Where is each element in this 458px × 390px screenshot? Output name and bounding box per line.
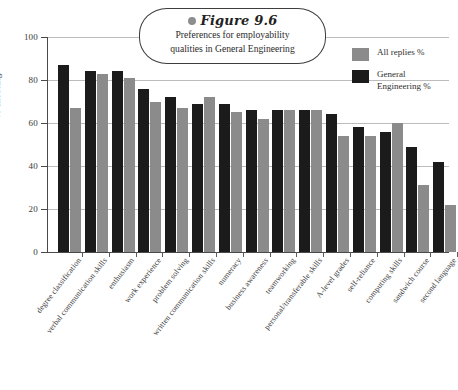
figure-title-line-1: Preferences for employability [140,28,325,42]
bar-all-replies [418,185,429,252]
bar-all-replies [311,110,322,252]
bar-all-replies [258,119,269,252]
bar-all-replies [150,102,161,253]
bar-general-engineering [112,71,123,252]
figure-number-row: Figure 9.6 [140,13,325,28]
figure-number: Figure 9.6 [201,13,278,28]
bar-general-engineering [272,110,283,252]
y-tick-label: 80 [14,75,38,85]
y-tick-label: 20 [14,204,38,214]
x-axis-label: numeracy [216,256,243,287]
bar-group [165,37,188,252]
bar-all-replies [124,78,135,252]
bar-group [299,37,322,252]
bar-general-engineering [58,65,69,252]
bar-all-replies [231,112,242,252]
bar-general-engineering [353,127,364,252]
bar-general-engineering [165,97,176,252]
bullet-dot-icon [188,17,196,25]
figure-title-callout: Figure 9.6 Preferences for employability… [139,8,326,64]
bar-general-engineering [138,89,149,252]
legend-entry: General Engineering % [352,69,431,92]
bar-all-replies [392,123,403,252]
bar-group [58,37,81,252]
bar-all-replies [365,136,376,252]
bar-general-engineering [219,104,230,252]
bar-general-engineering [406,147,417,252]
bar-general-engineering [85,71,96,252]
legend-entry: All replies % [352,47,431,61]
legend-label: All replies % [377,47,425,59]
bar-all-replies [284,110,295,252]
y-tick-label: 40 [14,161,38,171]
bar-general-engineering [326,114,337,252]
bar-group [272,37,295,252]
y-tick-label: 60 [14,118,38,128]
bar-all-replies [204,97,215,252]
bar-group [112,37,135,252]
bar-general-engineering [380,132,391,252]
bar-general-engineering [246,110,257,252]
y-tick-label: 100 [14,32,38,42]
bar-group [219,37,242,252]
bar-all-replies [338,136,349,252]
bar-group [246,37,269,252]
bar-group [85,37,108,252]
legend-label: General Engineering % [377,69,431,92]
bar-general-engineering [299,110,310,252]
chart-legend: All replies %General Engineering % [352,47,431,100]
x-axis-label: degree classification [34,256,83,315]
bar-all-replies [177,108,188,252]
bar-group [326,37,349,252]
bar-group [192,37,215,252]
bar-all-replies [445,205,456,252]
bar-group [433,37,456,252]
legend-swatch [352,70,369,83]
figure-title-line-2: qualities in General Engineering [140,42,325,56]
bar-all-replies [70,108,81,252]
bar-general-engineering [192,104,203,252]
bar-group [138,37,161,252]
bar-general-engineering [433,162,444,252]
x-axis-labels: degree classificationverbal communicatio… [0,252,454,390]
legend-swatch [352,48,369,61]
bar-all-replies [97,74,108,252]
y-axis-label: % choosing [0,73,2,118]
